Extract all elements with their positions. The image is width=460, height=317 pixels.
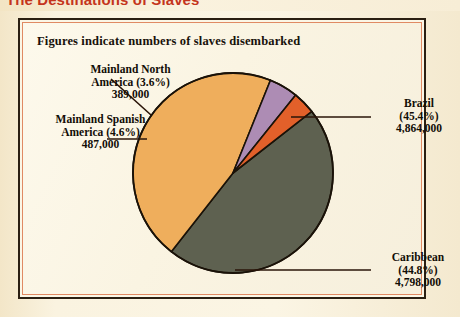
label-caribbean-line1: Caribbean — [371, 251, 460, 264]
figure-frame-inner: Figures indicate numbers of slaves disem… — [22, 22, 422, 295]
label-brazil-line1: Brazil — [373, 97, 460, 110]
label-brazil: Brazil (45.4%) 4,864,000 — [373, 97, 460, 135]
label-brazil-value: 4,864,000 — [373, 122, 460, 135]
label-mna-line1: Mainland North — [64, 63, 197, 76]
label-msa-line1: Mainland Spanish — [28, 113, 173, 126]
figure-frame: Figures indicate numbers of slaves disem… — [18, 18, 426, 299]
page-title-strip: The Destinations of Slaves — [0, 0, 460, 11]
label-mna-value: 389,000 — [64, 88, 197, 101]
label-mna-line2: America (3.6%) — [64, 76, 197, 89]
label-msa-line2: America (4.6%) — [28, 126, 173, 139]
label-caribbean-line2: (44.8%) — [371, 264, 460, 277]
page-title: The Destinations of Slaves — [6, 0, 199, 8]
label-caribbean-value: 4,798,000 — [371, 276, 460, 289]
label-mainland-north-america: Mainland North America (3.6%) 389,000 — [64, 63, 197, 101]
label-mainland-spanish-america: Mainland Spanish America (4.6%) 487,000 — [28, 113, 173, 151]
label-brazil-line2: (45.4%) — [373, 110, 460, 123]
label-msa-value: 487,000 — [28, 138, 173, 151]
label-caribbean: Caribbean (44.8%) 4,798,000 — [371, 251, 460, 289]
page-background: The Destinations of Slaves Figures indic… — [0, 0, 460, 317]
